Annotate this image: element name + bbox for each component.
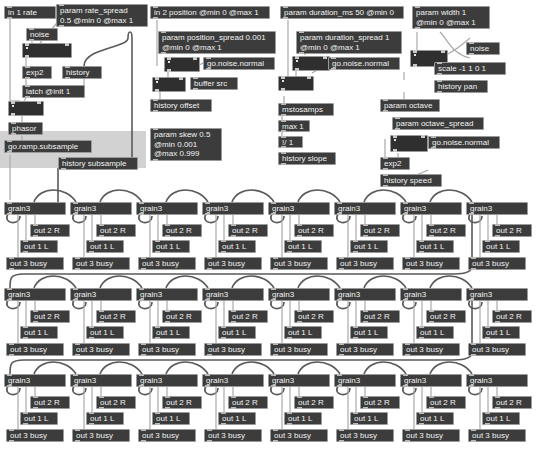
grain3-out1-r3c7[interactable]: out 1 L [416, 412, 454, 425]
grain3-out3-r2c1[interactable]: out 3 busy [6, 343, 64, 356]
grain3-object-r1c1[interactable]: grain3 [4, 202, 66, 215]
operator-add-2[interactable] [278, 76, 314, 91]
grain3-out3-r3c7[interactable]: out 3 busy [402, 429, 460, 442]
grain3-object-r1c5[interactable]: grain3 [268, 202, 330, 215]
operator-multiply-6[interactable] [390, 135, 428, 152]
grain3-out3-r1c1[interactable]: out 3 busy [6, 257, 64, 270]
patcher-canvas[interactable]: in 1 rate param rate_spread 0.5 @min 0 @… [0, 0, 539, 453]
grain3-out2-r2c5[interactable]: out 2 R [294, 310, 334, 323]
object-exp2-2[interactable]: exp2 [380, 157, 410, 170]
grain3-out1-r1c1[interactable]: out 1 L [20, 240, 58, 253]
grain3-out3-r1c2[interactable]: out 3 busy [72, 257, 130, 270]
grain3-out2-r2c2[interactable]: out 2 R [96, 310, 136, 323]
grain3-object-r3c8[interactable]: grain3 [466, 374, 528, 387]
grain3-out3-r3c8[interactable]: out 3 busy [468, 429, 526, 442]
grain3-out1-r1c5[interactable]: out 1 L [284, 240, 322, 253]
grain3-object-r2c1[interactable]: grain3 [4, 288, 66, 301]
grain3-out1-r3c1[interactable]: out 1 L [20, 412, 58, 425]
grain3-out1-r2c1[interactable]: out 1 L [20, 326, 58, 339]
grain3-object-r2c4[interactable]: grain3 [202, 288, 264, 301]
grain3-out3-r2c8[interactable]: out 3 busy [468, 343, 526, 356]
object-history-1[interactable]: history [62, 66, 102, 79]
operator-multiply-2[interactable] [8, 101, 44, 116]
grain3-out2-r1c6[interactable]: out 2 R [360, 224, 400, 237]
grain3-out2-r1c5[interactable]: out 2 R [294, 224, 334, 237]
grain3-object-r2c5[interactable]: grain3 [268, 288, 330, 301]
object-history-pan[interactable]: history pan [434, 80, 488, 93]
grain3-out3-r1c5[interactable]: out 3 busy [270, 257, 328, 270]
grain3-out2-r1c7[interactable]: out 2 R [426, 224, 466, 237]
grain3-out1-r1c4[interactable]: out 1 L [218, 240, 256, 253]
grain3-out3-r2c5[interactable]: out 3 busy [270, 343, 328, 356]
object-go-noise-normal-3[interactable]: go.noise.normal [428, 136, 500, 149]
grain3-object-r1c4[interactable]: grain3 [202, 202, 264, 215]
grain3-object-r3c2[interactable]: grain3 [70, 374, 132, 387]
object-go-noise-normal-2[interactable]: go.noise.normal [328, 57, 400, 70]
grain3-out2-r3c1[interactable]: out 2 R [30, 396, 70, 409]
operator-multiply-3[interactable] [164, 57, 200, 72]
object-max-1[interactable]: max 1 [278, 120, 310, 132]
grain3-out1-r2c3[interactable]: out 1 L [152, 326, 190, 339]
grain3-out2-r2c1[interactable]: out 2 R [30, 310, 70, 323]
grain3-out3-r1c7[interactable]: out 3 busy [402, 257, 460, 270]
grain3-object-r1c8[interactable]: grain3 [466, 202, 528, 215]
grain3-out1-r2c4[interactable]: out 1 L [218, 326, 256, 339]
grain3-out2-r1c8[interactable]: out 2 R [492, 224, 532, 237]
grain3-out3-r2c4[interactable]: out 3 busy [204, 343, 262, 356]
grain3-out1-r3c8[interactable]: out 1 L [482, 412, 520, 425]
object-go-ramp-subsample[interactable]: go.ramp.subsample [4, 140, 92, 153]
grain3-out3-r3c2[interactable]: out 3 busy [72, 429, 130, 442]
grain3-object-r2c6[interactable]: grain3 [334, 288, 396, 301]
object-history-offset[interactable]: history offset [150, 99, 212, 112]
operator-add-1[interactable] [152, 77, 186, 92]
object-history-slope[interactable]: history slope [278, 152, 336, 165]
grain3-out2-r2c8[interactable]: out 2 R [492, 310, 532, 323]
operator-multiply-1[interactable] [22, 43, 72, 58]
grain3-out2-r3c4[interactable]: out 2 R [228, 396, 268, 409]
grain3-out1-r2c7[interactable]: out 1 L [416, 326, 454, 339]
grain3-out1-r3c2[interactable]: out 1 L [86, 412, 124, 425]
object-param-position-spread[interactable]: param position_spread 0.001 @min 0 @max … [158, 31, 276, 54]
grain3-out3-r3c3[interactable]: out 3 busy [138, 429, 196, 442]
object-history-speed[interactable]: history speed [380, 174, 442, 187]
operator-multiply-4[interactable] [292, 56, 330, 71]
grain3-out1-r1c7[interactable]: out 1 L [416, 240, 454, 253]
grain3-out2-r3c8[interactable]: out 2 R [492, 396, 532, 409]
grain3-out2-r3c5[interactable]: out 2 R [294, 396, 334, 409]
grain3-out3-r2c7[interactable]: out 3 busy [402, 343, 460, 356]
grain3-object-r2c7[interactable]: grain3 [400, 288, 462, 301]
object-param-duration-ms[interactable]: param duration_ms 50 @min 0 [280, 6, 404, 19]
object-exp2-1[interactable]: exp2 [22, 66, 52, 79]
grain3-out1-r1c6[interactable]: out 1 L [350, 240, 388, 253]
grain3-object-r1c6[interactable]: grain3 [334, 202, 396, 215]
grain3-out1-r3c4[interactable]: out 1 L [218, 412, 256, 425]
grain3-out3-r1c3[interactable]: out 3 busy [138, 257, 196, 270]
object-go-noise-normal-1[interactable]: go.noise.normal [203, 57, 275, 70]
object-mstosamps[interactable]: mstosamps [278, 103, 334, 116]
grain3-out2-r2c7[interactable]: out 2 R [426, 310, 466, 323]
grain3-out1-r3c3[interactable]: out 1 L [152, 412, 190, 425]
grain3-out2-r1c3[interactable]: out 2 R [162, 224, 202, 237]
grain3-out2-r3c3[interactable]: out 2 R [162, 396, 202, 409]
grain3-out2-r3c2[interactable]: out 2 R [96, 396, 136, 409]
grain3-object-r1c2[interactable]: grain3 [70, 202, 132, 215]
grain3-out2-r3c6[interactable]: out 2 R [360, 396, 400, 409]
grain3-object-r3c6[interactable]: grain3 [334, 374, 396, 387]
grain3-object-r3c7[interactable]: grain3 [400, 374, 462, 387]
grain3-out2-r1c1[interactable]: out 2 R [30, 224, 70, 237]
object-param-width[interactable]: param width 1 @min 0 @max 1 [412, 6, 490, 29]
grain3-object-r3c1[interactable]: grain3 [4, 374, 66, 387]
grain3-out2-r2c6[interactable]: out 2 R [360, 310, 400, 323]
grain3-out1-r1c8[interactable]: out 1 L [482, 240, 520, 253]
grain3-out1-r1c3[interactable]: out 1 L [152, 240, 190, 253]
grain3-out1-r2c6[interactable]: out 1 L [350, 326, 388, 339]
grain3-out1-r3c6[interactable]: out 1 L [350, 412, 388, 425]
grain3-object-r2c8[interactable]: grain3 [466, 288, 528, 301]
object-in-1-rate[interactable]: in 1 rate [4, 6, 56, 19]
grain3-object-r3c4[interactable]: grain3 [202, 374, 264, 387]
grain3-out3-r1c8[interactable]: out 3 busy [468, 257, 526, 270]
grain3-out1-r2c2[interactable]: out 1 L [86, 326, 124, 339]
object-param-rate-spread[interactable]: param rate_spread 0.5 @min 0 @max 1 [56, 4, 148, 27]
grain3-out3-r3c6[interactable]: out 3 busy [336, 429, 394, 442]
object-in-2-position[interactable]: in 2 position @min 0 @max 1 [150, 6, 270, 19]
